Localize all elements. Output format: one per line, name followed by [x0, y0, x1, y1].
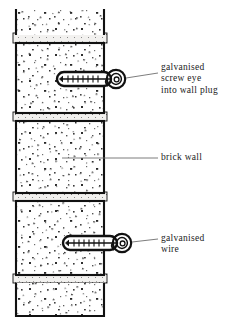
screw-threads-lower — [74, 240, 104, 247]
brick-courses — [16, 9, 104, 316]
figure-canvas: galvanised screw eye into wall plug bric… — [0, 0, 241, 326]
callout-screw-eye-label: galvanised screw eye into wall plug — [161, 62, 218, 96]
leader-line-galvanised-wire — [132, 239, 158, 242]
callout-line: brick wall — [161, 152, 202, 163]
brick-course-middle — [16, 121, 104, 193]
callout-galvanised-wire-label: galvanised wire — [161, 233, 205, 256]
callout-line: into wall plug — [161, 85, 218, 96]
callout-line: wire — [161, 244, 205, 255]
brick-course-bottom-partial — [16, 283, 104, 316]
callout-brick-wall-label: brick wall — [161, 152, 202, 163]
screw-eye-lower — [63, 234, 131, 252]
callout-line: screw eye — [161, 73, 218, 84]
callout-line: galvanised — [161, 62, 218, 73]
leader-line-screw-eye — [126, 73, 158, 78]
screw-threads-upper — [68, 76, 98, 83]
screw-eye-upper — [57, 70, 125, 88]
callout-line: galvanised — [161, 233, 205, 244]
wall-diagram — [0, 0, 241, 326]
brick-course-top-partial — [16, 9, 104, 35]
